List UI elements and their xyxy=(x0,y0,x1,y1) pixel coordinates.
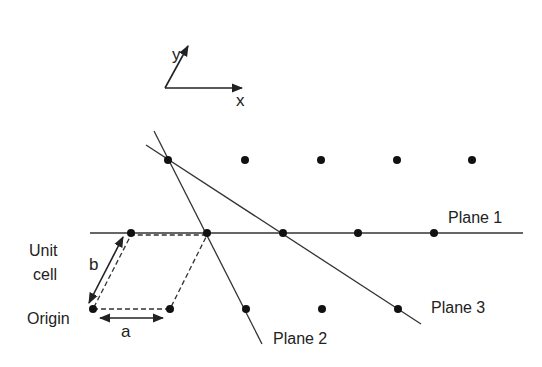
lattice-point xyxy=(279,229,287,237)
x-axis-label: x xyxy=(236,91,245,110)
lattice-point xyxy=(166,305,174,313)
unit-cell-label-line2: cell xyxy=(33,266,57,283)
lattice-point xyxy=(394,305,402,313)
coordinate-axes: x y xyxy=(165,45,245,110)
plane-2-label: Plane 2 xyxy=(273,330,327,347)
lattice-point xyxy=(468,156,476,164)
origin-label: Origin xyxy=(27,310,70,327)
plane-3-label: Plane 3 xyxy=(431,299,485,316)
lattice-point xyxy=(242,305,250,313)
unit-cell-label-line1: Unit xyxy=(29,242,58,259)
vector-b-label: b xyxy=(89,255,98,274)
lattice-point xyxy=(430,229,438,237)
lattice-point xyxy=(127,229,135,237)
lattice-point xyxy=(164,156,172,164)
unit-cell-outline xyxy=(93,235,207,309)
vector-a-label: a xyxy=(121,322,131,341)
lattice-point xyxy=(393,156,401,164)
lattice-point xyxy=(318,305,326,313)
diagram-labels: Plane 1 Plane 2 Plane 3 Unit cell Origin xyxy=(27,209,502,347)
lattice-point xyxy=(354,229,362,237)
lattice-vectors: a b xyxy=(89,237,163,341)
origin-point xyxy=(89,305,97,313)
plane-1-label: Plane 1 xyxy=(448,209,502,226)
lattice-point xyxy=(203,229,211,237)
y-axis-label: y xyxy=(172,45,181,64)
lattice-point xyxy=(317,156,325,164)
crystal-lattice-diagram: x y a b Plane 1 Plane 2 xyxy=(0,0,542,367)
lattice-point xyxy=(241,156,249,164)
